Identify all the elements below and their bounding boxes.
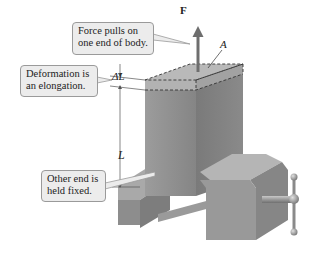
fixed-end-callout-line-1: Other end is	[47, 173, 101, 185]
elongation-label: ΔL	[112, 70, 125, 82]
dimension-lines	[110, 64, 145, 187]
handle-knob-bottom	[291, 229, 298, 236]
force-callout-line-2: one end of body.	[78, 37, 149, 49]
deformation-callout-line-2: an elongation.	[26, 80, 93, 92]
handle-hub	[289, 194, 299, 204]
deformation-callout-line-1: Deformation is	[26, 68, 93, 80]
deform-callout-tail	[97, 77, 112, 83]
tensile-stress-diagram: Force pulls on one end of body. Deformat…	[0, 0, 312, 256]
area-label: A	[220, 38, 227, 50]
block-front-face	[145, 80, 196, 196]
force-callout: Force pulls on one end of body.	[72, 22, 154, 55]
deformation-callout: Deformation is an elongation.	[20, 65, 98, 97]
length-label: L	[118, 148, 125, 163]
diagram-canvas	[0, 0, 312, 256]
screw-thread	[262, 196, 292, 203]
elongation-band-front	[145, 80, 196, 90]
force-callout-tail	[153, 34, 190, 44]
fixed-end-callout: Other end is held fixed.	[41, 170, 106, 202]
handle-knob-top	[291, 174, 298, 181]
dim-ext-mid	[110, 86, 145, 90]
force-label: F	[180, 4, 187, 16]
force-callout-line-1: Force pulls on	[78, 25, 149, 37]
fixed-end-callout-line-2: held fixed.	[47, 185, 101, 197]
